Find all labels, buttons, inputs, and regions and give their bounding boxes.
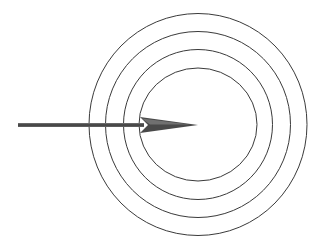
arrow-shaft <box>18 123 144 127</box>
arrow-icon <box>18 117 198 133</box>
third-ring <box>124 50 273 200</box>
target-diagram <box>0 0 315 249</box>
diagram-svg <box>0 0 315 249</box>
